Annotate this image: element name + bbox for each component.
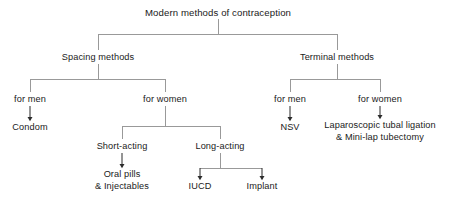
node-nsv: NSV: [280, 122, 299, 134]
node-spacing-for-women: for women: [143, 94, 187, 106]
node-iucd: IUCD: [189, 181, 212, 193]
node-terminal-for-women: for women: [358, 94, 402, 106]
node-long-acting: Long-acting: [195, 141, 244, 153]
node-spacing-methods: Spacing methods: [62, 52, 135, 64]
node-female-sterilization-line1: Laparoscopic tubal ligation: [324, 120, 436, 130]
node-oral-pills-line2: & Injectables: [95, 181, 149, 193]
node-condom: Condom: [12, 122, 47, 134]
node-oral-pills-injectables: Oral pills & Injectables: [95, 169, 149, 192]
node-oral-pills-line1: Oral pills: [104, 169, 141, 179]
node-spacing-for-men: for men: [14, 94, 46, 106]
node-female-sterilization-line2: & Mini-lap tubectomy: [324, 132, 436, 144]
node-root: Modern methods of contraception: [145, 7, 291, 19]
contraception-methods-diagram: Modern methods of contraception Spacing …: [0, 0, 453, 205]
node-short-acting: Short-acting: [97, 141, 148, 153]
node-terminal-methods: Terminal methods: [300, 52, 374, 64]
node-implant: Implant: [247, 181, 278, 193]
node-female-sterilization: Laparoscopic tubal ligation & Mini-lap t…: [324, 120, 436, 143]
node-terminal-for-men: for men: [274, 94, 306, 106]
